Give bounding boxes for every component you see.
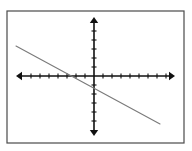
coordinate-plane-figure xyxy=(0,0,192,151)
graph-screenshot xyxy=(0,0,192,151)
